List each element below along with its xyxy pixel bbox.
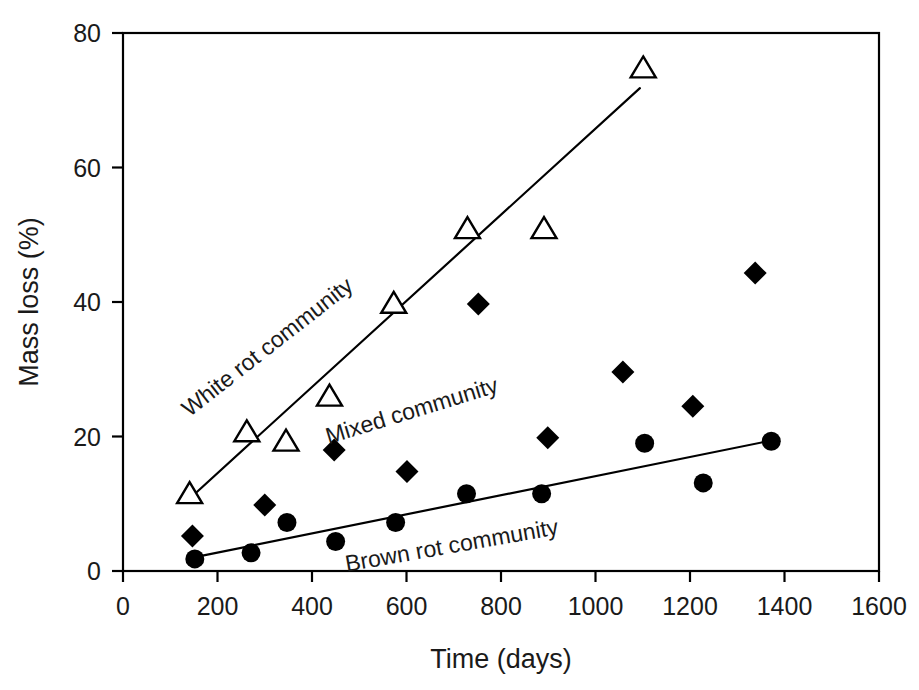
data-point-diamond [467,293,490,316]
data-point-triangle [381,292,406,313]
data-point-triangle [531,217,556,238]
data-point-diamond [395,460,418,483]
y-tick-label: 0 [87,557,101,585]
data-point-diamond [681,395,704,418]
data-point-circle [326,532,345,551]
data-point-diamond [611,360,634,383]
y-axis-title: Mass loss (%) [14,217,44,387]
data-point-diamond [744,262,767,285]
x-axis-title: Time (days) [430,644,572,674]
scatter-plot: 02004006008001000120014001600 020406080 … [0,0,919,690]
x-axis-ticks [123,571,879,582]
data-point-circle [532,484,551,503]
data-series-markers [177,56,781,568]
data-point-circle [185,549,204,568]
data-point-circle [762,432,781,451]
data-point-triangle [234,420,259,441]
data-point-diamond [536,426,559,449]
x-tick-label: 600 [386,592,428,620]
trend-line [191,88,640,498]
plot-frame [123,33,879,571]
y-tick-label: 40 [73,288,101,316]
chart-figure: 02004006008001000120014001600 020406080 … [0,0,919,690]
x-tick-label: 200 [197,592,239,620]
data-point-circle [635,434,654,453]
data-point-circle [242,543,261,562]
x-tick-label: 0 [116,592,130,620]
data-point-circle [386,513,405,532]
x-tick-label: 1600 [851,592,907,620]
data-point-circle [277,513,296,532]
y-axis-ticks [112,33,123,571]
x-tick-label: 1000 [568,592,624,620]
series-annotations: White rot communityMixed communityBrown … [176,272,560,577]
data-point-diamond [181,525,204,548]
series-group [177,56,656,503]
data-point-circle [457,484,476,503]
y-tick-label: 60 [73,154,101,182]
data-point-triangle [455,217,480,238]
data-point-circle [694,473,713,492]
data-point-diamond [253,494,276,517]
x-tick-label: 1400 [757,592,813,620]
x-tick-label: 400 [291,592,333,620]
series-annotation-label: Mixed community [322,372,501,449]
x-axis-tick-labels: 02004006008001000120014001600 [116,592,907,620]
y-tick-label: 20 [73,423,101,451]
y-axis-tick-labels: 020406080 [73,19,101,585]
data-point-triangle [631,56,656,77]
series-annotation-label: Brown rot community [343,513,561,576]
data-point-triangle [177,482,202,503]
data-point-triangle [274,430,299,451]
x-tick-label: 1200 [662,592,718,620]
data-point-triangle [317,385,342,406]
x-tick-label: 800 [480,592,522,620]
y-tick-label: 80 [73,19,101,47]
